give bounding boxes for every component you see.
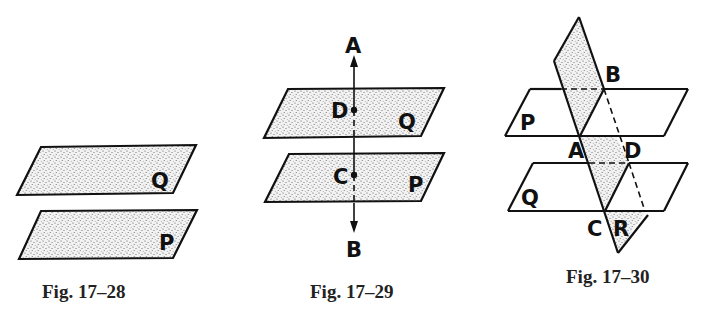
plane-q-label: Q	[151, 169, 169, 193]
point-a-label: A	[345, 34, 362, 58]
plane-r-top	[554, 17, 604, 136]
point-b-label: B	[346, 238, 362, 262]
plane-p-right-edge	[664, 89, 688, 136]
figure-17-30: B P A D Q C R Fig. 17–30	[505, 17, 688, 287]
point-a-label: A	[568, 139, 585, 163]
plane-q-right-edge	[664, 163, 688, 211]
point-d	[351, 107, 357, 113]
figure-17-29: A B D C Q P Fig. 17–29	[264, 34, 444, 302]
plane-r-middle	[580, 136, 629, 211]
point-d-label: D	[331, 99, 348, 123]
point-b-label: B	[605, 63, 621, 87]
plane-q	[17, 145, 196, 195]
plane-p-label: P	[159, 231, 174, 255]
geometry-figures: Q P Fig. 17–28 A B D C Q P Fig. 17–29	[0, 0, 704, 315]
figure-17-28: Q P Fig. 17–28	[17, 145, 197, 302]
point-c	[351, 172, 357, 178]
plane-r-hidden-edge-lower	[629, 163, 645, 211]
plane-p-label: P	[408, 173, 423, 197]
figure-caption: Fig. 17–29	[310, 281, 393, 302]
point-c-label: C	[587, 217, 602, 241]
plane-p-label: P	[520, 111, 535, 135]
plane-q-label: Q	[521, 186, 539, 210]
arrow-down-icon	[350, 221, 358, 233]
point-c-label: C	[333, 165, 348, 189]
figure-caption: Fig. 17–28	[42, 281, 125, 302]
plane-r-label: R	[613, 217, 629, 241]
figure-caption: Fig. 17–30	[566, 266, 649, 287]
plane-q-label: Q	[398, 110, 416, 134]
point-d-label: D	[624, 139, 641, 163]
